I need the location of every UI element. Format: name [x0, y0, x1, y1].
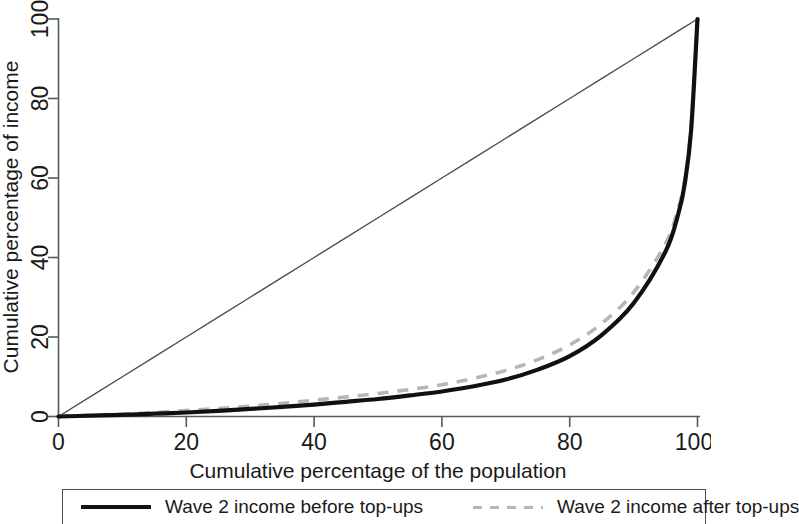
- y-tick-label: 0: [27, 410, 53, 423]
- x-axis-title: Cumulative percentage of the population: [189, 459, 566, 482]
- legend-entry-after: Wave 2 income after top-ups: [473, 490, 799, 524]
- x-tick-label: 0: [52, 429, 65, 455]
- x-tick-label: 20: [174, 429, 200, 455]
- x-axis-tick-labels: 0 20 40 60 80 100: [52, 429, 711, 455]
- y-tick-label: 80: [27, 86, 53, 112]
- y-axis-tick-labels: 0 20 40 60 80 100: [27, 0, 53, 423]
- legend-swatch-solid-line-icon: [81, 501, 151, 513]
- legend-label-before: Wave 2 income before top-ups: [165, 496, 423, 518]
- line-of-equality: [59, 19, 698, 417]
- y-tick-label: 20: [27, 324, 53, 350]
- legend-entry-before: Wave 2 income before top-ups: [81, 490, 423, 524]
- legend-swatch-dashed-line-icon: [473, 501, 543, 513]
- x-tick-label: 100: [675, 429, 711, 455]
- x-tick-label: 60: [429, 429, 455, 455]
- x-axis-ticks: [59, 417, 698, 428]
- y-tick-label: 100: [27, 0, 53, 38]
- y-axis-ticks: [48, 19, 59, 417]
- y-tick-label: 40: [27, 245, 53, 271]
- legend-label-after: Wave 2 income after top-ups: [557, 496, 799, 518]
- legend: Wave 2 income before top-ups Wave 2 inco…: [62, 489, 706, 524]
- y-tick-label: 60: [27, 165, 53, 191]
- y-axis-title: Cumulative percentage of income: [0, 61, 22, 374]
- x-tick-label: 80: [557, 429, 583, 455]
- plot-area: 0 20 40 60 80 100 Cumulative percentage …: [0, 0, 711, 490]
- x-tick-label: 40: [301, 429, 327, 455]
